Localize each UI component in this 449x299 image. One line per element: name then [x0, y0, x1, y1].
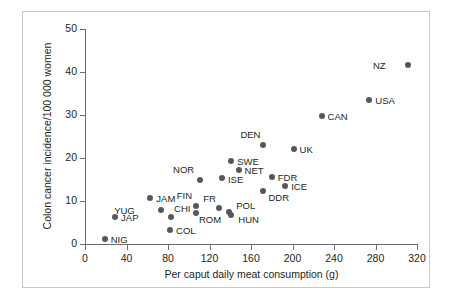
data-point — [366, 97, 372, 103]
data-point-label: USA — [375, 96, 395, 106]
y-tick-label: 30 — [57, 108, 77, 120]
y-tick — [80, 29, 85, 30]
data-point — [260, 188, 266, 194]
y-tick — [80, 158, 85, 159]
x-tick — [376, 245, 377, 250]
data-point — [158, 207, 164, 213]
data-point — [147, 195, 153, 201]
x-tick — [334, 245, 335, 250]
x-tick — [210, 245, 211, 250]
data-point — [236, 167, 242, 173]
y-tick-label: 20 — [57, 151, 77, 163]
data-point-label: NZ — [373, 61, 386, 71]
x-tick-label: 240 — [314, 252, 354, 264]
x-tick-label: 40 — [107, 252, 147, 264]
scatter-plot-figure: 04080120160200240280320 01020304050 NIGJ… — [0, 0, 449, 299]
data-point — [260, 142, 266, 148]
data-point — [193, 203, 199, 209]
y-tick-label: 40 — [57, 65, 77, 77]
x-tick-label: 160 — [231, 252, 271, 264]
x-tick — [293, 245, 294, 250]
data-point — [219, 175, 225, 181]
y-tick — [80, 244, 85, 245]
data-point-label: UK — [300, 145, 313, 155]
data-point — [405, 62, 411, 68]
x-tick-label: 200 — [273, 252, 313, 264]
data-point — [102, 236, 108, 242]
data-point — [319, 113, 325, 119]
data-point — [282, 183, 288, 189]
data-point — [197, 177, 203, 183]
y-tick-label: 50 — [57, 22, 77, 34]
data-point-label: YUG — [114, 206, 135, 216]
data-point-label: DEN — [240, 130, 260, 140]
data-point-label: ICE — [291, 182, 307, 192]
x-tick-label: 280 — [356, 252, 396, 264]
x-tick-label: 120 — [190, 252, 230, 264]
y-tick — [80, 115, 85, 116]
data-point — [291, 146, 297, 152]
data-point-label: ROM — [199, 215, 221, 225]
data-point — [269, 174, 275, 180]
data-point-label: COL — [176, 226, 196, 236]
x-tick — [251, 245, 252, 250]
data-point-label: ISE — [228, 175, 243, 185]
y-axis-label: Colon cancer incidence/100 000 women — [41, 26, 53, 246]
data-point-label: FR — [203, 194, 216, 204]
y-tick-label: 10 — [57, 194, 77, 206]
data-point-label: NOR — [173, 165, 194, 175]
data-point — [228, 212, 234, 218]
data-point-label: CAN — [328, 112, 348, 122]
y-tick-label: 0 — [57, 237, 77, 249]
data-point — [216, 205, 222, 211]
data-point-label: POL — [236, 201, 255, 211]
x-tick — [127, 245, 128, 250]
data-point — [228, 158, 234, 164]
x-tick — [85, 245, 86, 250]
y-tick — [80, 72, 85, 73]
data-point-label: DDR — [268, 193, 289, 203]
plot-area: 04080120160200240280320 01020304050 NIGJ… — [0, 0, 449, 299]
y-tick — [80, 201, 85, 202]
data-point — [168, 214, 174, 220]
y-axis-line — [85, 29, 86, 245]
data-point-label: JAM — [156, 194, 175, 204]
data-point-label: CHI — [174, 204, 190, 214]
data-point-label: FIN — [177, 191, 192, 201]
x-axis-label: Per caput daily meat consumption (g) — [85, 268, 418, 280]
data-point — [167, 227, 173, 233]
data-point-label: NIG — [111, 235, 128, 245]
data-point-label: NET — [245, 166, 264, 176]
data-point-label: HUN — [238, 215, 259, 225]
x-tick — [168, 245, 169, 250]
x-tick-label: 0 — [65, 252, 105, 264]
x-tick — [417, 245, 418, 250]
x-tick-label: 320 — [397, 252, 437, 264]
x-tick-label: 80 — [148, 252, 188, 264]
